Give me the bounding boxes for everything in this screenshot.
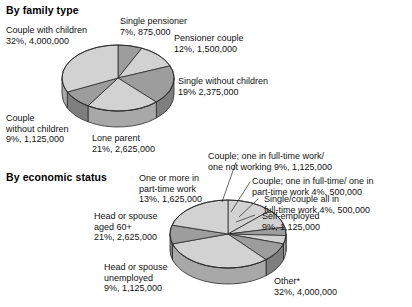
label-aged-60-plus-line2: aged 60+: [94, 222, 158, 233]
label-single-couple-full-time-line2: full-time work 4%, 500,000: [264, 205, 370, 216]
figure-canvas: By family type Single pensioner 7%, 875,…: [0, 0, 412, 307]
label-couple-full-part-time: Couple; one in full-time/ one in part-ti…: [252, 176, 374, 197]
label-couple-full-not-working-line1: Couple; one in full-time work/: [208, 151, 324, 161]
label-aged-60-plus-line3: 21%, 2,625,000: [94, 232, 158, 243]
label-unemployed-line2: unemployed: [104, 273, 168, 284]
label-unemployed-line3: 9%, 1,125,000: [104, 283, 168, 294]
leader-lines-economic-status: [0, 0, 412, 307]
label-aged-60-plus-line1: Head or spouse: [94, 211, 158, 221]
label-other-line1: Other*: [274, 276, 300, 286]
label-couple-full-part-time-line1: Couple; one in full-time/ one in: [252, 176, 374, 186]
label-couple-full-part-time-line2: part-time work 4%, 500,000: [252, 187, 374, 198]
label-part-time-work-line1: One or more in: [139, 173, 199, 183]
label-other: Other* 32%, 4,000,000: [274, 276, 337, 297]
label-unemployed-line1: Head or spouse: [104, 262, 168, 272]
label-couple-full-time-not-working: Couple; one in full-time work/ one not w…: [208, 151, 332, 172]
label-head-or-spouse-unemployed: Head or spouse unemployed 9%, 1,125,000: [104, 262, 168, 294]
label-part-time-work-line2: part-time work: [139, 184, 202, 195]
label-other-line2: 32%, 4,000,000: [274, 287, 337, 298]
label-part-time-work-line3: 13%, 1,625,000: [139, 194, 202, 205]
label-aged-60-plus: Head or spouse aged 60+ 21%, 2,625,000: [94, 211, 158, 243]
label-couple-full-not-working-line2: one not working 9%, 1,125,000: [208, 162, 332, 173]
label-part-time-work: One or more in part-time work 13%, 1,625…: [139, 173, 202, 205]
label-self-employed-line2: 9%, 1,125,000: [262, 222, 320, 233]
